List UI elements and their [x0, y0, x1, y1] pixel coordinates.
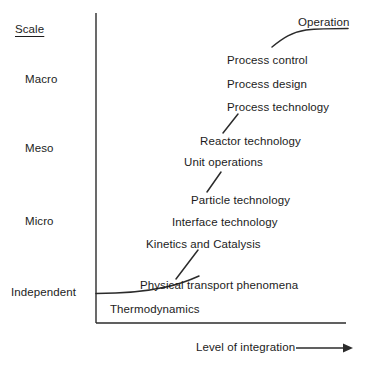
node-reactor-technology: Reactor technology — [200, 136, 301, 148]
y-tick-macro: Macro — [25, 74, 57, 86]
x-axis-caption: Level of integration — [196, 342, 295, 354]
node-operation: Operation — [298, 17, 349, 29]
y-tick-meso: Meso — [25, 143, 54, 155]
y-tick-micro: Micro — [25, 216, 54, 228]
y-tick-independent: Independent — [11, 287, 76, 299]
node-physical-transport-phenomena: Physical transport phenomena — [140, 280, 298, 292]
node-process-design: Process design — [227, 79, 307, 91]
node-kinetics-and-catalysis: Kinetics and Catalysis — [146, 239, 261, 251]
scale-vs-integration-diagram: Scale Macro Meso Micro Independent Opera… — [0, 0, 371, 371]
physical-transport-to-kinetics-connector — [176, 250, 198, 279]
node-process-technology: Process technology — [227, 102, 329, 114]
scale-heading: Scale — [15, 24, 44, 36]
operation-curve — [272, 29, 348, 48]
unit-operations-to-particle-technology-connector — [207, 172, 221, 192]
process-technology-to-reactor-technology-connector — [223, 114, 238, 133]
level-of-integration-arrow-head — [343, 344, 353, 353]
node-thermodynamics: Thermodynamics — [110, 304, 200, 316]
node-particle-technology: Particle technology — [191, 195, 290, 207]
node-unit-operations: Unit operations — [184, 157, 263, 169]
node-interface-technology: Interface technology — [172, 217, 278, 229]
node-process-control: Process control — [227, 55, 308, 67]
